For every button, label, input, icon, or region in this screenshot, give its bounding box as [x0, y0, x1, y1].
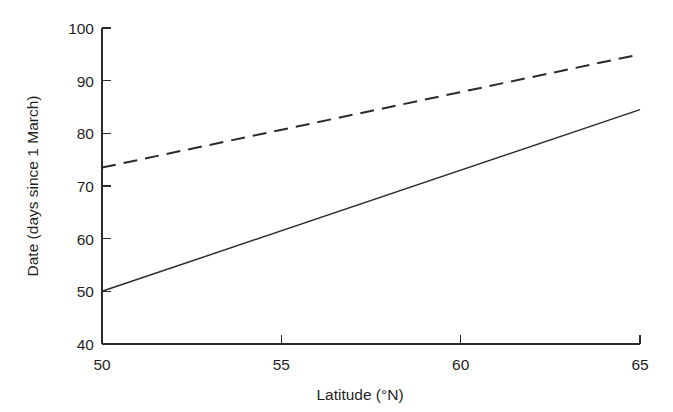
- y-tick-label-40: 40: [77, 336, 95, 353]
- x-tick-label-50: 50: [93, 356, 111, 373]
- y-tick-label-90: 90: [77, 73, 95, 90]
- line-chart: 100 90 80 70 60 50 40 50 55 60 65 Latitu…: [0, 0, 673, 412]
- plot-background: [102, 28, 640, 344]
- y-tick-label-50: 50: [77, 283, 95, 300]
- y-tick-label-100: 100: [68, 20, 94, 37]
- y-axis-title: Date (days since 1 March): [24, 96, 41, 277]
- chart-figure: 100 90 80 70 60 50 40 50 55 60 65 Latitu…: [0, 0, 673, 412]
- y-tick-label-80: 80: [77, 125, 95, 142]
- x-tick-label-55: 55: [273, 356, 290, 373]
- x-axis-title: Latitude (°N): [316, 386, 403, 403]
- x-tick-label-65: 65: [631, 356, 648, 373]
- y-tick-label-70: 70: [77, 178, 95, 195]
- x-tick-label-60: 60: [452, 356, 470, 373]
- y-tick-label-60: 60: [77, 231, 95, 248]
